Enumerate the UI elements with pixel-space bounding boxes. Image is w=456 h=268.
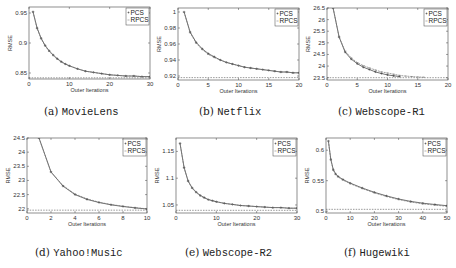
y-tick-label: 0.6: [316, 147, 325, 153]
y-tick-label: 0.5: [316, 208, 325, 214]
chart-hugewiki: 010203040500.50.550.6Outer IterationsRMS…: [0, 0, 456, 268]
legend: PCSRPCS: [423, 139, 446, 156]
x-tick-label: 0: [324, 215, 328, 221]
caption-hugewiki: (f) Hugewiki: [344, 246, 410, 259]
x-tick-label: 50: [444, 215, 451, 221]
legend-label-pcs: PCS: [428, 140, 442, 147]
legend-label-rpcs: RPCS: [428, 147, 447, 154]
y-tick-label: 0.55: [312, 178, 324, 184]
x-tick-label: 10: [347, 215, 354, 221]
y-axis-label: RMSE: [304, 167, 310, 183]
x-tick-label: 40: [419, 215, 426, 221]
x-axis-label: Outer Iterations: [368, 221, 406, 227]
plot-hugewiki: 010203040500.50.550.6Outer IterationsRMS…: [0, 0, 456, 230]
